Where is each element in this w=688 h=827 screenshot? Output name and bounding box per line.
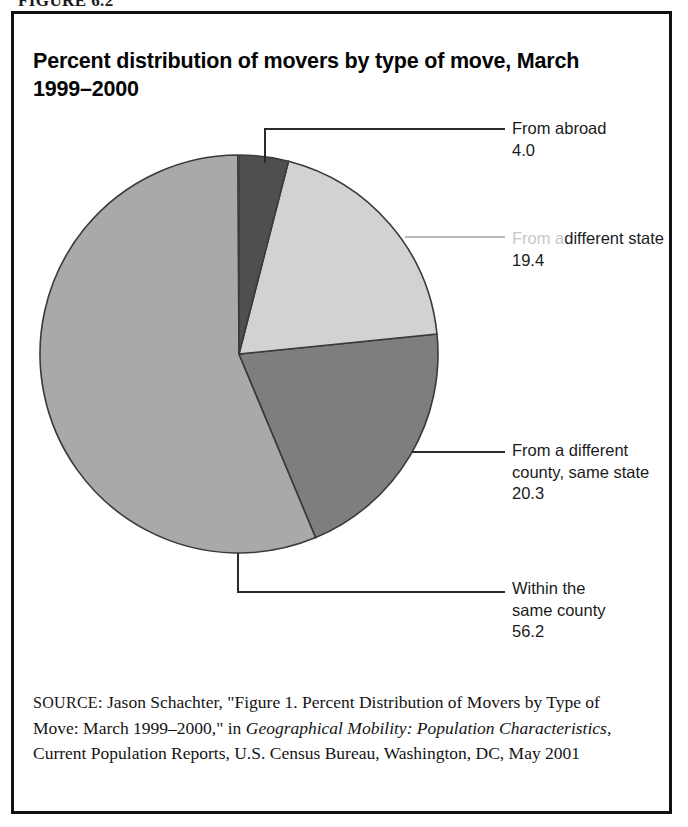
source-kicker: SOURCE: (33, 694, 103, 711)
pie-label-within-same-county: Within the same county 56.2 (512, 578, 606, 643)
source-text-part-2: Current Population Reports, U.S. Census … (33, 743, 580, 763)
pie-label-from-abroad: From abroad 4.0 (512, 118, 606, 161)
source-publication-title: Geographical Mobility: Population Charac… (246, 718, 612, 738)
source-note: SOURCE: Jason Schachter, "Figure 1. Perc… (33, 690, 633, 767)
pie-label-different-county-same-state: From a different county, same state 20.3 (512, 440, 649, 505)
pie-label-different-state: From adifferent state 19.4 (512, 228, 664, 271)
figure-number-caption: FIGURE 6.2 (18, 0, 114, 11)
chart-title: Percent distribution of movers by type o… (33, 47, 623, 103)
pie-label-different-state-line1: From a (512, 229, 564, 247)
